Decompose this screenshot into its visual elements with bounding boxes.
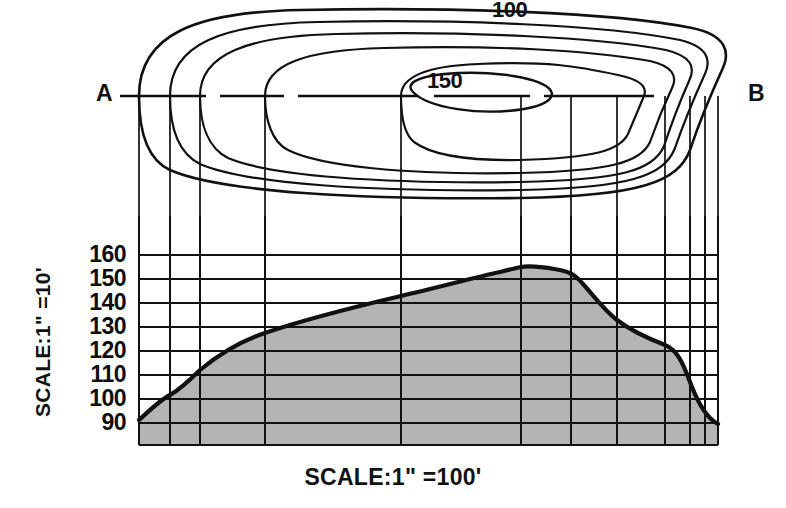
elevation-tick-labels: 160 150 140 130 120 110 100 90: [52, 0, 126, 508]
figure-root: A B 100 150 SCALE:1" =100' SCALE:1" =10'…: [0, 0, 786, 508]
elevation-tick: 140: [56, 291, 126, 314]
elevation-tick: 110: [56, 363, 126, 386]
elevation-tick: 120: [56, 339, 126, 362]
section-endpoint-label-b: B: [748, 80, 765, 107]
contour-label-150: 150: [427, 68, 462, 94]
elevation-tick: 90: [56, 411, 126, 434]
elevation-tick: 150: [56, 267, 126, 290]
elevation-tick: 100: [56, 387, 126, 410]
elevation-tick: 160: [56, 243, 126, 266]
profile-fill: [139, 266, 718, 445]
elevation-tick: 130: [56, 315, 126, 338]
contour-label-100: 100: [492, 0, 527, 23]
